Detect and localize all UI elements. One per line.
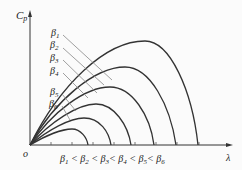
legend-beta3: β3 [49,52,59,65]
legend-beta4: β4 [49,65,59,78]
x-axis-label: λ [225,152,231,163]
beta-order-annotation: β1 < β2 < β3< β4 < β5< β6 [59,153,165,166]
leader-lines [62,35,112,120]
legend-beta6: β6 [48,98,58,111]
legend-beta2: β2 [49,39,59,52]
origin-label: o [23,148,28,159]
x-axis-arrow-icon [226,143,233,147]
cp-lambda-chart: Cp β1 β2 β3 β4 β5 β6 o λ β1 < β2 < β3< β… [0,0,242,170]
chart-svg: Cp β1 β2 β3 β4 β5 β6 o λ β1 < β2 < β3< β… [0,0,242,170]
y-axis-arrow-icon [28,10,32,17]
y-axis-label: Cp [16,9,27,23]
